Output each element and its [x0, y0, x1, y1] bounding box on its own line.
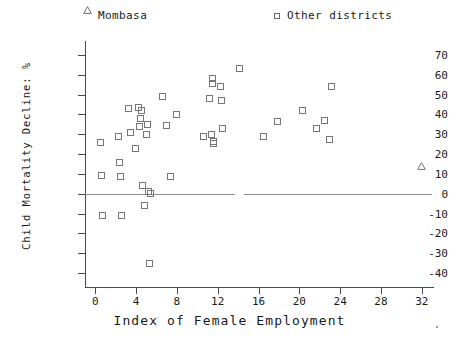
- data-point-other-district: [115, 133, 122, 140]
- x-tick-mark: [95, 287, 96, 294]
- y-tick-mark: [78, 214, 85, 215]
- square-marker-icon: [274, 13, 280, 19]
- reference-line-segment: [85, 194, 235, 195]
- data-point-other-district: [167, 173, 174, 180]
- x-tick-mark: [299, 287, 300, 294]
- data-point-other-district: [200, 133, 207, 140]
- data-point-other-district: [137, 115, 144, 122]
- x-tick-label: 0: [80, 296, 110, 307]
- legend-label-other-districts: Other districts: [287, 10, 392, 22]
- data-point-other-district: [206, 95, 213, 102]
- y-tick-mark: [78, 194, 85, 195]
- data-point-other-district: [118, 212, 125, 219]
- data-point-other-district: [136, 123, 143, 130]
- x-tick-mark: [136, 287, 137, 294]
- y-tick-mark: [78, 154, 85, 155]
- data-point-other-district: [127, 129, 134, 136]
- legend-label-mombasa: Mombasa: [98, 10, 147, 22]
- data-point-other-district: [132, 145, 139, 152]
- data-point-other-district: [98, 172, 105, 179]
- data-point-other-district: [209, 80, 216, 87]
- data-point-other-district: [146, 260, 153, 267]
- chart-legend: Mombasa Other districts: [0, 6, 459, 26]
- x-tick-label: 28: [366, 296, 396, 307]
- y-tick-mark: [78, 253, 85, 254]
- data-point-other-district: [260, 133, 267, 140]
- data-point-other-district: [217, 83, 224, 90]
- data-point-other-district: [125, 105, 132, 112]
- x-tick-mark: [340, 287, 341, 294]
- x-tick-label: 4: [121, 296, 151, 307]
- data-point-other-district: [116, 159, 123, 166]
- legend-entry-mombasa: Mombasa: [83, 10, 147, 22]
- legend-entry-other-districts: Other districts: [274, 10, 392, 22]
- y-axis-title: Child Mortality Decline: %: [20, 36, 32, 276]
- data-point-mombasa: [417, 155, 426, 163]
- plot-area: [85, 45, 432, 283]
- data-point-other-district: [218, 97, 225, 104]
- x-tick-mark: [259, 287, 260, 294]
- x-tick-mark: [177, 287, 178, 294]
- data-point-other-district: [144, 121, 151, 128]
- data-point-other-district: [236, 65, 243, 72]
- x-tick-mark: [381, 287, 382, 294]
- data-point-other-district: [117, 173, 124, 180]
- x-tick-label: 32: [407, 296, 437, 307]
- corner-speck: [436, 326, 438, 328]
- data-point-other-district: [143, 131, 150, 138]
- data-point-other-district: [138, 107, 145, 114]
- data-point-other-district: [163, 122, 170, 129]
- scatter-plot-figure: Mombasa Other districts 706050403020100-…: [0, 0, 459, 345]
- y-tick-mark: [78, 114, 85, 115]
- data-point-other-district: [147, 190, 154, 197]
- data-point-other-district: [210, 140, 217, 147]
- y-tick-mark: [78, 174, 85, 175]
- reference-line-segment: [244, 194, 432, 195]
- x-tick-label: 20: [284, 296, 314, 307]
- y-tick-mark: [78, 75, 85, 76]
- data-point-other-district: [274, 118, 281, 125]
- data-point-other-district: [321, 117, 328, 124]
- data-point-other-district: [159, 93, 166, 100]
- data-point-other-district: [141, 202, 148, 209]
- x-tick-label: 16: [244, 296, 274, 307]
- y-tick-mark: [78, 134, 85, 135]
- data-point-other-district: [173, 111, 180, 118]
- triangle-marker-icon: [83, 13, 91, 20]
- x-tick-mark: [422, 287, 423, 294]
- x-tick-label: 24: [325, 296, 355, 307]
- data-point-other-district: [313, 125, 320, 132]
- data-point-other-district: [219, 125, 226, 132]
- data-point-other-district: [328, 83, 335, 90]
- data-point-other-district: [99, 212, 106, 219]
- x-tick-label: 8: [162, 296, 192, 307]
- data-point-other-district: [208, 131, 215, 138]
- data-point-other-district: [97, 139, 104, 146]
- x-tick-label: 12: [203, 296, 233, 307]
- y-tick-mark: [78, 233, 85, 234]
- y-tick-mark: [78, 95, 85, 96]
- x-axis-title: Index of Female Employment: [0, 313, 459, 328]
- y-tick-mark: [78, 273, 85, 274]
- data-point-other-district: [299, 107, 306, 114]
- x-tick-mark: [218, 287, 219, 294]
- data-point-other-district: [326, 136, 333, 143]
- y-tick-mark: [78, 55, 85, 56]
